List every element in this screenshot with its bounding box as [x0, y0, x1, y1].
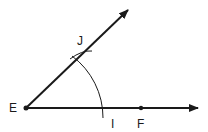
- point-e: [24, 106, 29, 111]
- label-e: E: [9, 102, 17, 114]
- label-i: I: [111, 118, 114, 130]
- label-j: J: [77, 35, 83, 47]
- label-f: F: [137, 118, 144, 130]
- angle-diagram: [0, 0, 208, 132]
- point-f: [139, 106, 143, 110]
- ray-ej: [26, 10, 128, 108]
